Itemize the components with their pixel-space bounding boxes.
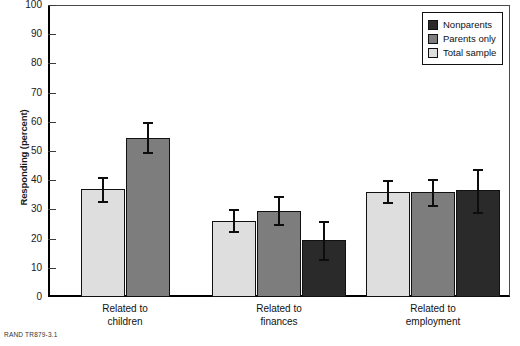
error-bar-cap-lower [473,212,483,214]
error-bar-cap-upper [98,177,108,179]
error-bar-line [477,169,479,213]
x-axis-category-label-line: Related to [55,303,195,316]
bar-chart-figure: Responding (percent) 0102030405060708090… [0,0,520,346]
x-axis-category-label-line: finances [209,316,349,329]
error-bar-cap-lower [428,205,438,207]
y-axis-tick [48,239,56,240]
error-bar-line [387,180,389,202]
y-axis-tick-label: 20 [2,234,42,244]
y-axis-tick [48,209,56,210]
legend-item-total-sample: Total sample [428,46,496,59]
error-bar-cap-lower [383,202,393,204]
bar [126,138,170,297]
error-bar-cap-lower [229,231,239,233]
error-bar-cap-lower [274,224,284,226]
error-bar-line [278,196,280,224]
legend-label-nonparents: Nonparents [443,20,492,30]
y-axis-tick-label: 40 [2,175,42,185]
bar [411,192,455,297]
y-axis-tick [48,122,56,123]
y-axis-tick [48,151,56,152]
error-bar-cap-lower [319,259,329,261]
legend-label-total-sample: Total sample [443,48,496,58]
figure-source-note: RAND TR879-3.1 [4,331,58,338]
x-axis-category-label: Related tochildren [55,303,195,328]
x-axis-category-label-line: children [55,316,195,329]
error-bar-cap-upper [143,122,153,124]
y-axis-tick-label: 80 [2,58,42,68]
y-axis-tick [48,180,56,181]
chart-legend: Nonparents Parents only Total sample [422,12,503,65]
error-bar-line [323,221,325,259]
legend-swatch-parents-only [428,34,438,44]
legend-swatch-total-sample [428,48,438,58]
y-axis-tick [48,5,56,6]
y-axis-tick-label: 50 [2,146,42,156]
footer-text: RAND TR879-3.1 [4,331,58,338]
error-bar-cap-upper [383,180,393,182]
error-bar-cap-upper [229,209,239,211]
y-axis-tick-label: 100 [2,0,42,10]
y-axis-tick-label: 70 [2,88,42,98]
error-bar-cap-lower [143,152,153,154]
y-axis-tick-label: 60 [2,117,42,127]
y-axis-tick [48,63,56,64]
bar [81,189,125,297]
error-bar-line [147,122,149,153]
error-bar-line [432,179,434,205]
y-axis-tick-label: 90 [2,29,42,39]
error-bar-cap-upper [473,169,483,171]
error-bar-cap-upper [428,179,438,181]
bar [366,192,410,297]
y-axis-tick-label: 30 [2,204,42,214]
error-bar-cap-lower [98,201,108,203]
error-bar-line [102,177,104,200]
error-bar-line [233,209,235,231]
y-axis-tick [48,93,56,94]
y-axis-tick-label: 0 [2,292,42,302]
x-axis-category-label: Related toemployment [363,303,503,328]
legend-swatch-nonparents [428,20,438,30]
error-bar-cap-upper [319,221,329,223]
legend-item-parents-only: Parents only [428,32,496,45]
y-axis-tick [48,268,56,269]
x-axis-category-label-line: Related to [209,303,349,316]
y-axis-tick [48,34,56,35]
x-axis-category-label-line: Related to [363,303,503,316]
x-axis-category-label-line: employment [363,316,503,329]
x-axis-category-label: Related tofinances [209,303,349,328]
legend-item-nonparents: Nonparents [428,18,496,31]
error-bar-cap-upper [274,196,284,198]
legend-label-parents-only: Parents only [443,34,496,44]
y-axis-tick-label: 10 [2,263,42,273]
